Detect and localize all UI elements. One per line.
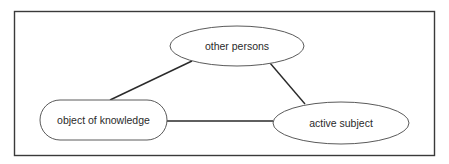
- node-other-persons: other persons: [170, 26, 304, 66]
- node-object-of-knowledge-label: object of knowledge: [57, 114, 150, 126]
- edge-other-persons-to-active-subject: [270, 63, 305, 104]
- node-active-subject: active subject: [273, 102, 409, 144]
- edge-knowledge-to-other-persons: [110, 61, 192, 100]
- node-active-subject-label: active subject: [309, 117, 373, 129]
- node-object-of-knowledge: object of knowledge: [40, 100, 167, 140]
- triangle-diagram: other persons object of knowledge active…: [0, 0, 449, 164]
- node-other-persons-label: other persons: [205, 40, 269, 52]
